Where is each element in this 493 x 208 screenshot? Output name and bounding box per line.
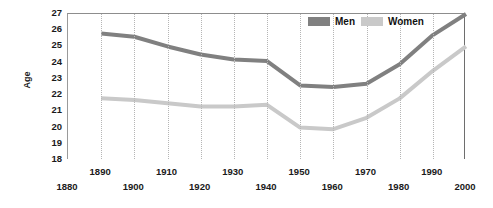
gridline-vertical xyxy=(367,14,368,159)
x-tick-label: 1980 xyxy=(379,181,419,192)
gridline-vertical xyxy=(168,14,169,159)
x-tick-label: 2000 xyxy=(445,181,485,192)
legend-item-men: Men xyxy=(308,16,355,27)
y-tick-label: 26 xyxy=(40,24,62,34)
gridline-vertical xyxy=(300,14,301,159)
gridline-vertical xyxy=(433,14,434,159)
x-axis-tick-labels: 1880189019001910192019301940195019601970… xyxy=(0,159,493,208)
x-tick-label: 1880 xyxy=(47,181,87,192)
x-tick-label: 1970 xyxy=(346,166,386,177)
gridline-vertical xyxy=(234,14,235,159)
x-tick-label: 1890 xyxy=(80,166,120,177)
plot-area xyxy=(67,13,465,159)
gridline-vertical xyxy=(333,14,334,159)
legend-swatch-icon xyxy=(308,17,330,26)
x-tick-label: 1900 xyxy=(113,181,153,192)
y-tick-label: 23 xyxy=(40,73,62,83)
x-tick-label: 1950 xyxy=(279,166,319,177)
gridline-vertical xyxy=(267,14,268,159)
gridline-vertical xyxy=(400,14,401,159)
series-line-women xyxy=(101,46,466,129)
chart-legend: MenWomen xyxy=(308,14,424,29)
x-tick-label: 1930 xyxy=(213,166,253,177)
legend-swatch-icon xyxy=(361,17,383,26)
y-tick-label: 19 xyxy=(40,138,62,148)
y-tick-label: 22 xyxy=(40,89,62,99)
y-tick-label: 20 xyxy=(40,122,62,132)
gridline-vertical xyxy=(201,14,202,159)
y-tick-label: 27 xyxy=(40,8,62,18)
legend-label: Men xyxy=(335,16,355,27)
x-tick-label: 1960 xyxy=(312,181,352,192)
y-tick-label: 24 xyxy=(40,57,62,67)
gridline-vertical xyxy=(101,14,102,159)
x-tick-label: 1990 xyxy=(412,166,452,177)
x-tick-label: 1910 xyxy=(147,166,187,177)
x-tick-label: 1940 xyxy=(246,181,286,192)
gridline-vertical xyxy=(134,14,135,159)
y-tick-label: 21 xyxy=(40,105,62,115)
y-tick-label: 25 xyxy=(40,40,62,50)
legend-item-women: Women xyxy=(361,16,424,27)
line-chart: Age 27262524232221201918 188018901900191… xyxy=(0,0,493,208)
legend-label: Women xyxy=(388,16,424,27)
x-tick-label: 1920 xyxy=(180,181,220,192)
